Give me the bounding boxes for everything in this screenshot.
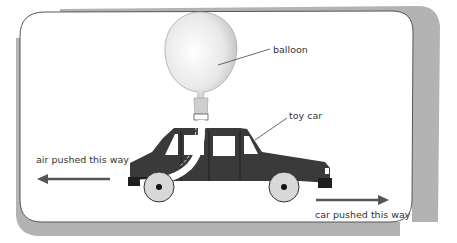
- balloon-label: balloon: [273, 44, 308, 55]
- air-direction-label: air pushed this way: [36, 154, 129, 165]
- front-wheel-icon: [269, 172, 299, 202]
- toy-car-label: toy car: [289, 110, 322, 121]
- car-direction-label: car pushed this way: [315, 209, 411, 220]
- diagram-canvas: balloon toy car air pushed this way car …: [0, 0, 457, 243]
- rear-wheel-icon: [144, 172, 174, 202]
